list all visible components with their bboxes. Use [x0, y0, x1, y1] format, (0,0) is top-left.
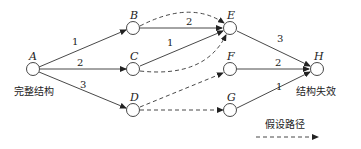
weight-b-e: 2	[186, 16, 192, 27]
node-g	[224, 104, 237, 117]
legend-label: 假设路径	[265, 118, 305, 130]
node-h-caption: 结构失效	[296, 85, 336, 97]
weight-f-h: 2	[275, 57, 281, 68]
legend: 假设路径	[256, 118, 318, 137]
node-d-label: D	[129, 91, 139, 104]
node-d	[127, 104, 140, 117]
diagram-canvas: A B C D E F G H 完整结构 结构失效 1 2 3 2 1 3 2 …	[0, 0, 361, 149]
node-a-label: A	[28, 50, 37, 63]
node-g-label: G	[227, 91, 236, 104]
node-f	[224, 63, 237, 76]
node-b	[127, 22, 140, 35]
node-c	[127, 63, 140, 76]
node-h-label: H	[313, 50, 324, 63]
node-h	[311, 63, 324, 76]
node-b-label: B	[129, 9, 138, 22]
node-c-label: C	[130, 50, 139, 63]
weight-a-b: 1	[72, 36, 78, 47]
path-diagram: A B C D E F G H 完整结构 结构失效 1 2 3 2 1 3 2 …	[0, 0, 361, 149]
weight-c-e: 1	[167, 37, 173, 48]
node-e-label: E	[226, 9, 235, 22]
edge-d-f-dashed	[140, 73, 223, 107]
edge-b-e-dashed	[140, 12, 224, 26]
edge-e-h	[237, 31, 310, 66]
edge-c-e	[140, 31, 223, 66]
weight-e-h: 3	[277, 33, 283, 44]
edge-c-e-dashed	[140, 35, 226, 72]
node-e	[224, 22, 237, 35]
weight-g-h: 1	[276, 81, 282, 92]
node-a	[27, 63, 40, 76]
weight-a-d: 3	[80, 79, 86, 90]
weight-a-c: 2	[77, 57, 83, 68]
node-f-label: F	[226, 50, 235, 63]
node-a-caption: 完整结构	[14, 85, 54, 97]
